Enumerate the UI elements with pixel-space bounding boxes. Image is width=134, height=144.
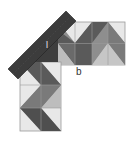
vertical-chevron-strip bbox=[20, 62, 61, 131]
label-b: b bbox=[76, 66, 82, 77]
label-l: l bbox=[46, 40, 48, 50]
quilt-diagram bbox=[0, 0, 134, 144]
